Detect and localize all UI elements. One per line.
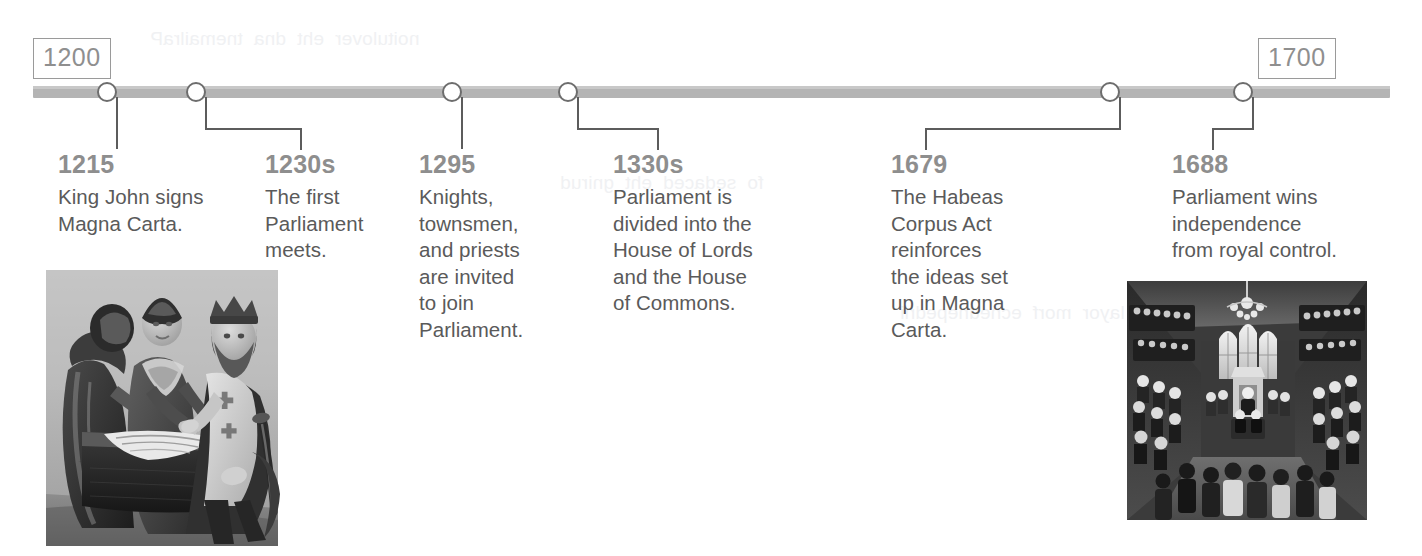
connector-1295 [461, 97, 463, 149]
timeline-node-1295[interactable] [442, 82, 462, 102]
entry-description: Knights, townsmen, and priests are invit… [419, 184, 554, 343]
entry-year: 1230s [265, 152, 425, 177]
entry-description: King John signs Magna Carta. [58, 184, 253, 237]
timeline-axis-bar [33, 86, 1390, 98]
house-of-commons-illustration [1127, 281, 1367, 520]
entry-year: 1679 [891, 152, 1041, 177]
connector-1679-seg1 [1119, 97, 1121, 130]
timeline-node-1230s[interactable] [186, 82, 206, 102]
entry-description: The first Parliament meets. [265, 184, 425, 264]
bleed-through-text: noitulover eht dna tnemailraP [150, 26, 419, 52]
entry-year: 1330s [613, 152, 798, 177]
connector-1679-seg2 [925, 128, 1121, 130]
timeline-node-1688[interactable] [1233, 82, 1253, 102]
connector-1215 [116, 97, 118, 149]
timeline-entry-1679: 1679 The Habeas Corpus Act reinforces th… [891, 152, 1041, 343]
axis-end-year-label: 1700 [1258, 38, 1336, 79]
timeline-entry-1330s: 1330s Parliament is divided into the Hou… [613, 152, 798, 317]
timeline-entry-1230s: 1230s The first Parliament meets. [265, 152, 425, 264]
connector-1330s-seg3 [657, 128, 659, 150]
timeline-entry-1295: 1295 Knights, townsmen, and priests are … [419, 152, 554, 343]
entry-year: 1295 [419, 152, 554, 177]
timeline-node-1679[interactable] [1100, 82, 1120, 102]
timeline-infographic: noitulover eht dna tnemailraP fo sedaced… [0, 0, 1422, 556]
connector-1230s-seg2 [205, 128, 302, 130]
connector-1688-seg2 [1212, 128, 1254, 130]
connector-1688-seg3 [1212, 128, 1214, 150]
entry-description: The Habeas Corpus Act reinforces the ide… [891, 184, 1041, 343]
connector-1330s-seg1 [577, 97, 579, 130]
connector-1330s-seg2 [577, 128, 659, 130]
connector-1688-seg1 [1252, 97, 1254, 130]
connector-1230s-seg3 [300, 128, 302, 150]
timeline-entry-1688: 1688 Parliament wins independence from r… [1172, 152, 1387, 264]
axis-start-year-label: 1200 [33, 38, 111, 79]
timeline-node-1215[interactable] [97, 82, 117, 102]
timeline-node-1330s[interactable] [558, 82, 578, 102]
magna-carta-illustration [38, 262, 286, 556]
connector-1230s-seg1 [205, 97, 207, 130]
entry-year: 1688 [1172, 152, 1387, 177]
connector-1679-seg3 [925, 128, 927, 150]
entry-year: 1215 [58, 152, 253, 177]
entry-description: Parliament is divided into the House of … [613, 184, 798, 317]
entry-description: Parliament wins independence from royal … [1172, 184, 1387, 264]
timeline-entry-1215: 1215 King John signs Magna Carta. [58, 152, 253, 237]
